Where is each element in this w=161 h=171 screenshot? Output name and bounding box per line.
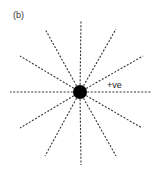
field-line	[45, 29, 80, 92]
field-line	[20, 56, 80, 92]
field-line	[80, 92, 142, 128]
field-line	[80, 92, 81, 165]
field-line	[20, 92, 80, 128]
field-line	[80, 92, 116, 156]
field-line	[45, 92, 80, 156]
field-lines-graphic	[0, 0, 161, 171]
charge-sign-label: +ve	[107, 80, 122, 90]
panel-label: (b)	[13, 10, 24, 20]
field-line	[80, 20, 81, 92]
electric-field-diagram: (b) +ve	[0, 0, 161, 171]
point-charge	[73, 85, 87, 99]
